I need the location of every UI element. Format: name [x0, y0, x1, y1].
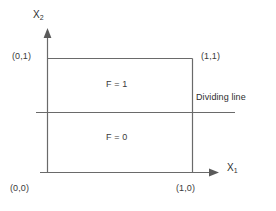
unit-square-diagram: X2 X1 (0,1) (1,1) (0,0) (1,0) F = 1 F = … — [0, 0, 276, 211]
corner-label-top-right: (1,1) — [201, 52, 220, 61]
x-axis-label-base: X — [227, 162, 234, 173]
y-axis-label-subscript: 2 — [40, 14, 44, 21]
unit-square-outline — [48, 59, 193, 173]
y-axis-label: X2 — [33, 10, 44, 21]
x-axis-arrowhead — [209, 169, 219, 177]
corner-label-bottom-right: (1,0) — [176, 184, 195, 193]
diagram-canvas — [0, 0, 276, 211]
y-axis — [44, 28, 52, 173]
y-axis-arrowhead — [44, 28, 52, 38]
corner-label-top-left: (0,1) — [12, 52, 31, 61]
dividing-line-label: Dividing line — [196, 93, 246, 102]
y-axis-label-base: X — [33, 9, 40, 20]
region-label-lower: F = 0 — [106, 133, 127, 142]
x-axis-label: X1 — [227, 163, 238, 174]
corner-label-origin: (0,0) — [10, 184, 29, 193]
x-axis-label-subscript: 1 — [234, 167, 238, 174]
region-label-upper: F = 1 — [106, 80, 127, 89]
